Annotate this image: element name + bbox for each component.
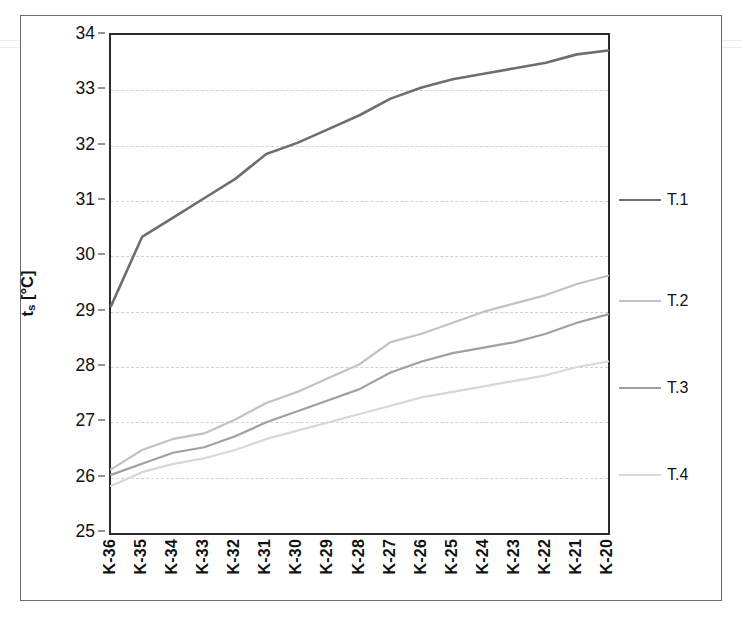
y-tick-label-32: 32 (76, 133, 95, 154)
series-line-t-3 (111, 314, 608, 474)
x-tick-label-k-28: K-28 (350, 539, 368, 574)
y-tick-label-28: 28 (76, 355, 95, 376)
y-tick-label-34: 34 (76, 23, 95, 44)
y-tick-mark-32 (98, 143, 105, 144)
x-tick-label-k-35: K-35 (132, 539, 150, 574)
plot-area (109, 33, 610, 535)
x-tick-label-k-21: K-21 (567, 539, 585, 574)
x-tick-label-k-25: K-25 (443, 539, 461, 574)
series-layer (111, 35, 608, 533)
y-tick-label-29: 29 (76, 299, 95, 320)
legend-label: T.3 (667, 379, 688, 397)
series-line-t-1 (111, 50, 608, 306)
y-tick-mark-25 (98, 531, 105, 532)
x-tick-label-k-32: K-32 (225, 539, 243, 574)
x-tick-label-k-36: K-36 (101, 539, 119, 574)
x-tick-label-k-24: K-24 (474, 539, 492, 574)
x-tick-label-k-23: K-23 (505, 539, 523, 574)
legend-swatch-icon (619, 199, 661, 201)
y-tick-label-31: 31 (76, 189, 95, 210)
legend-label: T.2 (667, 292, 688, 310)
legend-item-t-3[interactable]: T.3 (619, 378, 688, 398)
legend-item-t-4[interactable]: T.4 (619, 465, 688, 485)
y-tick-label-27: 27 (76, 410, 95, 431)
y-tick-label-33: 33 (76, 78, 95, 99)
x-tick-label-k-31: K-31 (256, 539, 274, 574)
x-tick-label-k-22: K-22 (536, 539, 554, 574)
y-tick-mark-28 (98, 365, 105, 366)
y-tick-label-26: 26 (76, 465, 95, 486)
legend-swatch-icon (619, 387, 661, 389)
x-tick-label-k-26: K-26 (412, 539, 430, 574)
series-line-t-4 (111, 361, 608, 486)
legend: T.1T.2T.3T.4 (619, 33, 723, 531)
legend-label: T.1 (667, 191, 688, 209)
y-tick-mark-29 (98, 309, 105, 310)
y-tick-mark-26 (98, 475, 105, 476)
y-tick-mark-31 (98, 199, 105, 200)
legend-swatch-icon (619, 474, 661, 476)
y-tick-label-25: 25 (76, 521, 95, 542)
x-tick-label-k-34: K-34 (163, 539, 181, 574)
x-tick-label-k-29: K-29 (318, 539, 336, 574)
x-tick-label-k-27: K-27 (381, 539, 399, 574)
y-tick-mark-27 (98, 420, 105, 421)
y-tick-label-30: 30 (76, 244, 95, 265)
y-axis: 25262728293031323334 (21, 33, 105, 531)
x-tick-label-k-30: K-30 (287, 539, 305, 574)
y-tick-mark-33 (98, 88, 105, 89)
line-chart: ts [°C] 25262728293031323334 K-36K-35K-3… (21, 16, 723, 602)
legend-swatch-icon (619, 300, 661, 302)
y-tick-mark-34 (98, 33, 105, 34)
series-line-t-2 (111, 276, 608, 470)
x-axis: K-36K-35K-34K-33K-32K-31K-30K-29K-28K-27… (109, 537, 606, 605)
legend-item-t-1[interactable]: T.1 (619, 190, 688, 210)
legend-label: T.4 (667, 466, 688, 484)
x-tick-label-k-20: K-20 (598, 539, 616, 574)
y-tick-mark-30 (98, 254, 105, 255)
x-tick-label-k-33: K-33 (194, 539, 212, 574)
legend-item-t-2[interactable]: T.2 (619, 291, 688, 311)
figure-frame: ts [°C] 25262728293031323334 K-36K-35K-3… (20, 15, 722, 601)
